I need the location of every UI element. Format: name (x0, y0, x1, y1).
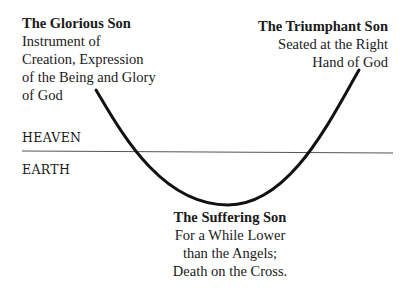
glorious-son-line: Creation, Expression (22, 50, 156, 68)
earth-label: EARTH (22, 162, 70, 177)
triumphant-son-line: Seated at the Right (258, 35, 388, 53)
glorious-son-line: of the Being and Glory (22, 68, 156, 86)
glorious-son-line: of God (22, 86, 156, 104)
triumphant-son-line: Hand of God (258, 53, 388, 71)
triumphant-son-title: The Triumphant Son (258, 17, 388, 35)
glorious-son-label: The Glorious Son Instrument of Creation,… (22, 14, 156, 104)
glorious-son-line: Instrument of (22, 32, 156, 50)
glorious-son-title: The Glorious Son (22, 14, 156, 32)
suffering-son-title: The Suffering Son (140, 208, 320, 226)
suffering-son-line: Death on the Cross. (140, 262, 320, 280)
heaven-label: HEAVEN (22, 130, 81, 145)
triumphant-son-label: The Triumphant Son Seated at the Right H… (258, 17, 388, 71)
suffering-son-line: For a While Lower (140, 226, 320, 244)
suffering-son-line: than the Angels; (140, 244, 320, 262)
heaven-earth-divider (22, 151, 393, 153)
suffering-son-label: The Suffering Son For a While Lower than… (140, 208, 320, 280)
